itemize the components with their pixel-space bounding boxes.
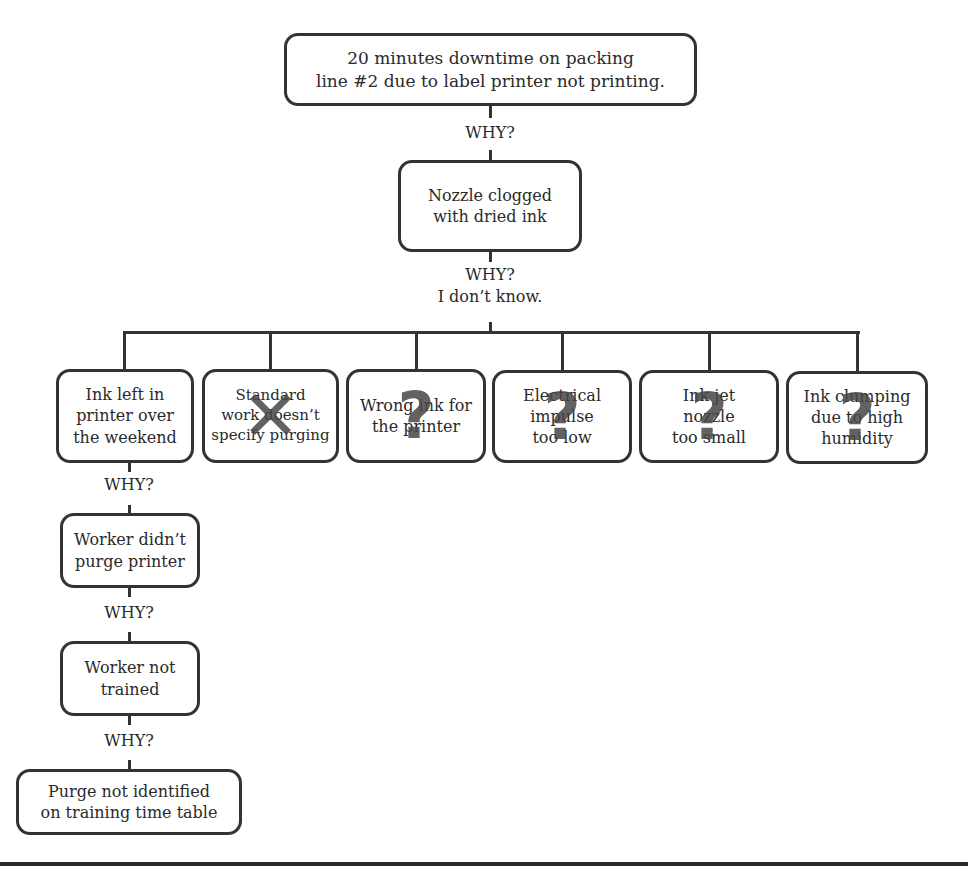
bottom-rule bbox=[0, 862, 968, 866]
candidate-wrong-ink: Wrong ink for the printer ? bbox=[346, 369, 486, 463]
connector bbox=[489, 150, 492, 160]
cause-text: Worker didn’t purge printer bbox=[74, 529, 186, 571]
branch-drop bbox=[123, 331, 126, 371]
candidate-text: Ink clumping due to high humidity bbox=[804, 386, 911, 449]
branch-drop bbox=[561, 331, 564, 371]
connector bbox=[489, 106, 492, 118]
cause-text: Nozzle clogged with dried ink bbox=[428, 185, 552, 227]
cause-box-worker-didnt-purge: Worker didn’t purge printer bbox=[60, 513, 200, 588]
candidate-text: Wrong ink for the printer bbox=[360, 395, 472, 437]
candidate-standard-work: Standard work doesn’t specify purging ✕ bbox=[202, 369, 339, 463]
candidate-ink-clumping: Ink clumping due to high humidity ? bbox=[786, 371, 928, 464]
connector bbox=[489, 252, 492, 262]
candidate-ink-left-in-printer: Ink left in printer over the weekend bbox=[56, 369, 194, 463]
why-label-chain-2: WHY? bbox=[104, 602, 154, 624]
branch-drop bbox=[415, 331, 418, 371]
connector bbox=[128, 588, 131, 597]
cause-box-worker-not-trained: Worker not trained bbox=[60, 641, 200, 716]
branch-drop bbox=[856, 331, 859, 371]
branch-bus bbox=[123, 331, 860, 334]
why-label-2: WHY? I don’t know. bbox=[438, 264, 543, 309]
cause-box-purge-not-identified: Purge not identified on training time ta… bbox=[16, 769, 242, 835]
branch-drop bbox=[269, 331, 272, 371]
candidate-text: Electrical impulse too low bbox=[523, 385, 601, 448]
candidate-text: Ink left in printer over the weekend bbox=[73, 384, 177, 447]
why-label-chain-1: WHY? bbox=[104, 474, 154, 496]
why-label-chain-3: WHY? bbox=[104, 730, 154, 752]
why-label-1: WHY? bbox=[465, 122, 515, 144]
candidate-ink-jet-nozzle: Ink jet nozzle too small ? bbox=[639, 370, 779, 463]
cause-text: Worker not trained bbox=[85, 657, 176, 699]
connector bbox=[128, 463, 131, 472]
problem-box: 20 minutes downtime on packing line #2 d… bbox=[284, 33, 697, 106]
candidate-text: Standard work doesn’t specify purging bbox=[211, 386, 329, 445]
cause-text: Purge not identified on training time ta… bbox=[41, 781, 218, 823]
branch-drop bbox=[708, 331, 711, 371]
candidate-electrical-impulse: Electrical impulse too low ? bbox=[492, 370, 632, 463]
candidate-text: Ink jet nozzle too small bbox=[672, 385, 746, 448]
connector bbox=[128, 716, 131, 725]
problem-text: 20 minutes downtime on packing line #2 d… bbox=[316, 47, 665, 92]
cause-box-nozzle-clogged: Nozzle clogged with dried ink bbox=[398, 160, 582, 252]
